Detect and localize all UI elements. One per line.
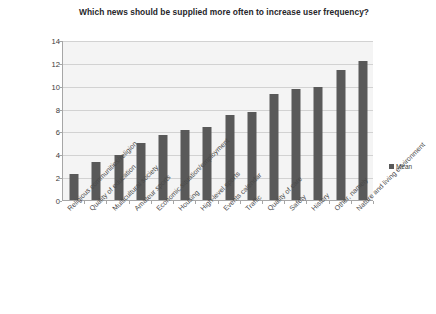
- bar[interactable]: [181, 130, 190, 200]
- x-axis-tick-mark: [218, 201, 219, 204]
- bar[interactable]: [114, 155, 123, 200]
- x-axis-tick-mark: [351, 201, 352, 204]
- x-axis-tick-mark: [373, 201, 374, 204]
- legend-square-marker-icon: [389, 164, 394, 169]
- x-axis-tick-mark: [129, 201, 130, 204]
- x-axis-tick-mark: [240, 201, 241, 204]
- bar[interactable]: [247, 112, 256, 200]
- y-axis-tick-label: 2: [44, 174, 60, 183]
- x-axis-tick-mark: [262, 201, 263, 204]
- bar-slot: [241, 41, 263, 200]
- bar[interactable]: [136, 143, 145, 200]
- bar-slot: [152, 41, 174, 200]
- y-axis-tick-label: 6: [44, 128, 60, 137]
- bar-slot: [352, 41, 374, 200]
- bar-chart: Which news should be supplied more often…: [0, 0, 436, 314]
- legend-entry-label: Mean: [396, 163, 412, 170]
- bar-slot: [63, 41, 85, 200]
- x-axis-tick-mark: [306, 201, 307, 204]
- y-axis-tick-mark: [59, 64, 62, 65]
- bar[interactable]: [92, 162, 101, 200]
- x-axis-tick-mark: [173, 201, 174, 204]
- y-axis-tick-mark: [59, 87, 62, 88]
- x-axis-tick-mark: [195, 201, 196, 204]
- y-axis-tick-label: 12: [44, 59, 60, 68]
- plot-area: [62, 41, 373, 201]
- bar[interactable]: [70, 174, 79, 200]
- bar-slot: [307, 41, 329, 200]
- x-axis-tick-mark: [151, 201, 152, 204]
- y-axis-tick-label: 4: [44, 151, 60, 160]
- bar-slot: [174, 41, 196, 200]
- bar-slot: [285, 41, 307, 200]
- y-axis-tick-label: 14: [44, 37, 60, 46]
- y-axis-tick-mark: [59, 155, 62, 156]
- y-axis-tick-mark: [59, 41, 62, 42]
- bar-slot: [330, 41, 352, 200]
- y-axis-tick-label: 8: [44, 105, 60, 114]
- bar[interactable]: [292, 89, 301, 200]
- bar-slot: [130, 41, 152, 200]
- chart-legend: Mean: [389, 163, 412, 170]
- x-axis-tick-mark: [84, 201, 85, 204]
- bar[interactable]: [336, 70, 345, 200]
- y-axis: 02468101214: [40, 41, 60, 201]
- bar-slot: [263, 41, 285, 200]
- bar[interactable]: [225, 115, 234, 200]
- y-axis-tick-label: 0: [44, 197, 60, 206]
- bar-slot: [196, 41, 218, 200]
- bar[interactable]: [270, 94, 279, 200]
- y-axis-tick-mark: [59, 201, 62, 202]
- bar[interactable]: [314, 87, 323, 200]
- bar[interactable]: [158, 135, 167, 200]
- bar-slot: [219, 41, 241, 200]
- bar-slot: [85, 41, 107, 200]
- chart-title: Which news should be supplied more often…: [74, 6, 374, 18]
- x-axis-tick-mark: [284, 201, 285, 204]
- y-axis-tick-label: 10: [44, 82, 60, 91]
- y-axis-tick-mark: [59, 132, 62, 133]
- bar-slot: [107, 41, 129, 200]
- y-axis-tick-mark: [59, 178, 62, 179]
- x-axis-tick-mark: [106, 201, 107, 204]
- bar[interactable]: [203, 127, 212, 200]
- bars-group: [63, 41, 373, 200]
- x-axis-tick-mark: [329, 201, 330, 204]
- y-axis-tick-mark: [59, 110, 62, 111]
- bar[interactable]: [358, 61, 367, 200]
